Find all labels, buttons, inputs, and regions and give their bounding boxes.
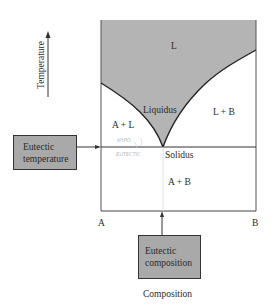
composition-b-label: B bbox=[252, 219, 258, 229]
a-plus-b-label: A + B bbox=[168, 178, 191, 188]
solidus-label: Solidus bbox=[165, 151, 194, 161]
eutectic-temperature-line2: temperature bbox=[23, 153, 76, 165]
eutectic-composition-line1: Eutectic bbox=[145, 245, 200, 257]
eutectic-temperature-line1: Eutectic bbox=[23, 141, 76, 153]
liquidus-label: Liquidus bbox=[143, 106, 177, 116]
eutectic-temperature-callout: Eutectic temperature bbox=[13, 135, 77, 170]
handwritten-eutectic-note: EUTECTIC bbox=[116, 151, 141, 157]
handwritten-hypo-note: HYPO bbox=[117, 137, 131, 143]
l-plus-b-label: L + B bbox=[213, 108, 235, 118]
eutectic-composition-callout: Eutectic composition bbox=[138, 235, 201, 279]
temperature-arrow-head-icon bbox=[46, 31, 51, 38]
liquid-region-label: L bbox=[171, 42, 177, 52]
a-plus-l-label: A + L bbox=[112, 121, 134, 131]
eutectic-composition-line2: composition bbox=[145, 257, 200, 269]
composition-axis-label: Composition bbox=[143, 290, 192, 300]
temperature-axis-label: Temperature bbox=[36, 36, 46, 94]
eutectic-temperature-arrow-head-icon bbox=[95, 145, 101, 149]
composition-a-label: A bbox=[98, 219, 105, 229]
eutectic-composition-arrow-head-icon bbox=[160, 211, 164, 217]
